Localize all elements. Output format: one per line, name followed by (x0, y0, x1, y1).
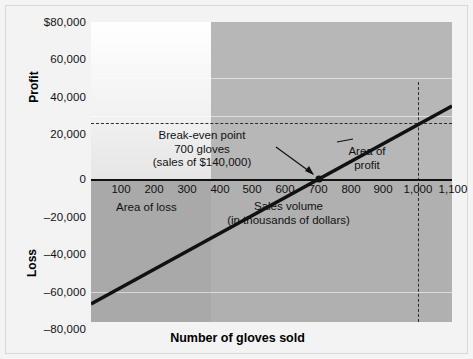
x-tick-label: 500 (242, 183, 261, 195)
x-tick-label: 400 (210, 183, 229, 195)
x-tick-label: 800 (341, 183, 360, 195)
x-tick-label: 1,000 (404, 183, 433, 195)
x-tick-label: 300 (177, 183, 196, 195)
y-tick-label: 0 (8, 173, 86, 185)
area-of-profit-label: Area of profit (336, 145, 398, 172)
breakeven-label-line1: Break-even point (112, 129, 292, 143)
profit-loss-line (91, 22, 452, 322)
y-tick-label: –20,000 (8, 211, 86, 223)
y-tick-label: –60,000 (8, 286, 86, 298)
chart-page: $80,000 60,000 40,000 20,000 0 –20,000 –… (0, 0, 473, 359)
x-axis-zero-line (91, 179, 452, 181)
area-of-profit-line2: profit (336, 159, 398, 173)
sales-volume-label: Sales volume (in thousands of dollars) (216, 200, 361, 227)
breakeven-annotation: Break-even point 700 gloves (sales of $1… (112, 129, 292, 170)
breakeven-label-line2: 700 gloves (112, 143, 292, 157)
area-of-profit-line1: Area of (336, 145, 398, 159)
breakeven-label-line3: (sales of $140,000) (112, 156, 292, 170)
plot-area (91, 22, 452, 322)
area-of-loss-label: Area of loss (116, 201, 177, 215)
y-axis-ticks: $80,000 60,000 40,000 20,000 0 –20,000 –… (6, 22, 86, 322)
sales-volume-line1: Sales volume (216, 200, 361, 214)
x-axis-ticks: 100 200 300 400 500 600 700 800 900 1,00… (91, 183, 471, 199)
x-tick-label: 700 (308, 183, 327, 195)
y-axis-title-loss: Loss (25, 233, 39, 293)
x-tick-label: 200 (144, 183, 163, 195)
x-tick-label: 100 (111, 183, 130, 195)
x-tick-label: 1,100 (439, 183, 468, 195)
y-tick-label: –40,000 (8, 248, 86, 260)
y-axis-title-profit: Profit (27, 57, 41, 117)
chart-card: $80,000 60,000 40,000 20,000 0 –20,000 –… (5, 5, 468, 354)
x-tick-label: 600 (275, 183, 294, 195)
x-tick-label: 900 (373, 183, 392, 195)
y-tick-label: 40,000 (8, 91, 86, 103)
x-axis-title: Number of gloves sold (1, 331, 473, 345)
y-tick-label: $80,000 (8, 16, 86, 28)
y-tick-label: 20,000 (8, 128, 86, 140)
sales-volume-line2: (in thousands of dollars) (216, 214, 361, 228)
y-tick-label: 60,000 (8, 53, 86, 65)
